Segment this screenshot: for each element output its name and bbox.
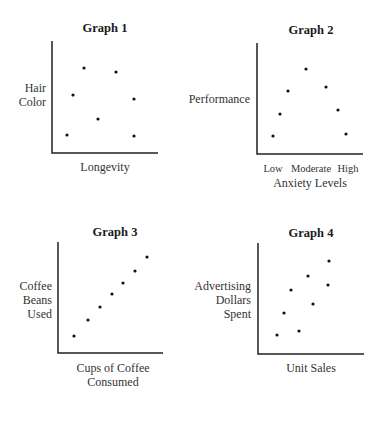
graph-3-ylabel-line2: Beans	[23, 293, 53, 307]
graph-4-points	[275, 259, 330, 336]
graph-2-xtick-high: High	[338, 163, 360, 174]
graph-3-ylabel-line1: Coffee	[20, 279, 52, 293]
graph-4-ylabel-line1: Advertising	[194, 279, 251, 293]
graph-2-xtick-moderate: Moderate	[291, 163, 332, 174]
graph-4-xlabel: Unit Sales	[286, 361, 336, 375]
graph-1: Graph 1 Hair Color Longevity	[19, 21, 158, 174]
graph-3-points	[72, 255, 148, 337]
graph-1-points	[65, 66, 135, 137]
graph-4-ylabel-line2: Dollars	[216, 293, 252, 307]
graph-2: Graph 2 Performance Low Moderate High An…	[189, 23, 363, 190]
graph-2-title: Graph 2	[289, 23, 334, 37]
graph-4: Graph 4 Advertising Dollars Spent Unit S…	[194, 226, 364, 375]
graph-1-ylabel-line2: Color	[19, 95, 46, 109]
graph-1-ylabel-line1: Hair	[25, 81, 46, 95]
graph-2-ylabel: Performance	[189, 92, 250, 106]
graph-3-title: Graph 3	[93, 225, 138, 239]
graph-2-points	[271, 67, 347, 137]
graph-4-axes	[258, 243, 364, 354]
graph-1-xlabel: Longevity	[80, 160, 129, 174]
graph-3-xlabel-line2: Consumed	[87, 375, 138, 389]
graph-1-title: Graph 1	[83, 21, 128, 35]
graph-3: Graph 3 Coffee Beans Used Cups of Coffee…	[20, 225, 163, 389]
graph-2-xtick-low: Low	[263, 163, 283, 174]
graph-3-ylabel-line3: Used	[27, 307, 52, 321]
scatter-figure: Graph 1 Hair Color Longevity Graph 2 Per…	[0, 0, 383, 424]
graph-2-xlabel: Anxiety Levels	[273, 176, 347, 190]
graph-4-title: Graph 4	[289, 226, 335, 240]
graph-4-ylabel-line3: Spent	[224, 307, 252, 321]
graph-3-xlabel-line1: Cups of Coffee	[76, 361, 149, 375]
